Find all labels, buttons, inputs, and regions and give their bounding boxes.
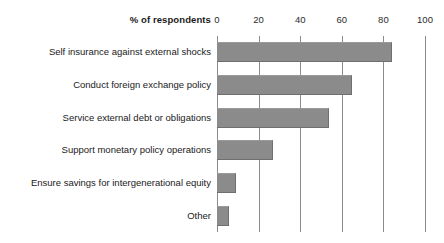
category-label: Other	[0, 210, 211, 221]
bar	[217, 206, 229, 226]
category-label: Conduct foreign exchange policy	[0, 79, 211, 90]
category-label: Self insurance against external shocks	[0, 46, 211, 57]
bar	[217, 140, 273, 160]
horizontal-bar-chart: % of respondents 020406080100 Self insur…	[0, 0, 444, 243]
category-label: Ensure savings for intergenerational equ…	[0, 177, 211, 188]
bar	[217, 108, 329, 128]
bar	[217, 173, 236, 193]
bar	[217, 42, 392, 62]
plot-area	[217, 36, 425, 232]
category-label: Service external debt or obligations	[0, 112, 211, 123]
gridline-100	[425, 36, 426, 232]
category-axis-labels: Self insurance against external shocksCo…	[0, 36, 211, 232]
bars-layer	[217, 36, 425, 232]
x-axis-title: % of respondents	[0, 14, 211, 25]
category-label: Support monetary policy operations	[0, 144, 211, 155]
x-tick-label-20: 20	[253, 14, 264, 25]
x-tick-label-0: 0	[214, 14, 219, 25]
x-tick-label-100: 100	[417, 14, 433, 25]
x-axis-tick-labels: 020406080100	[217, 14, 425, 28]
x-tick-label-80: 80	[378, 14, 389, 25]
x-tick-label-40: 40	[295, 14, 306, 25]
x-tick-label-60: 60	[337, 14, 348, 25]
bar	[217, 75, 352, 95]
